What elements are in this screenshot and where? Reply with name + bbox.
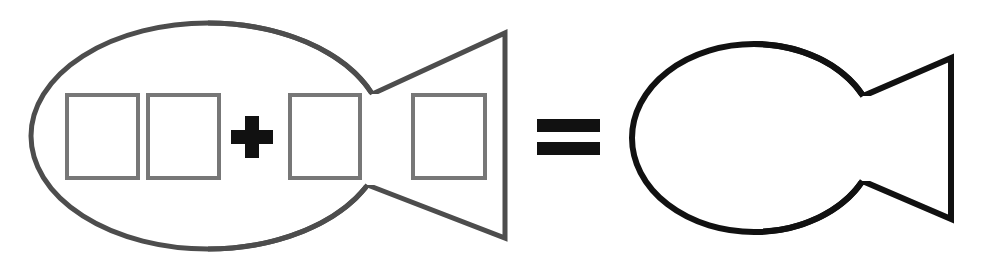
diagram-canvas: Fish puzzle equation [0,0,982,262]
rectangle-row [67,95,485,178]
plus-icon [231,116,273,158]
equals-bar-bottom [537,142,600,155]
left-fish-group [31,23,505,249]
right-fish-notch-mask [844,96,900,181]
rectangle-1 [67,95,138,178]
rectangle-3 [290,95,360,178]
equals-bar-top [537,119,600,132]
equals-icon [537,119,600,155]
rectangle-4 [413,95,485,178]
rectangle-2 [148,95,219,178]
fish-equation-diagram [0,0,982,262]
right-fish-group [632,44,951,232]
